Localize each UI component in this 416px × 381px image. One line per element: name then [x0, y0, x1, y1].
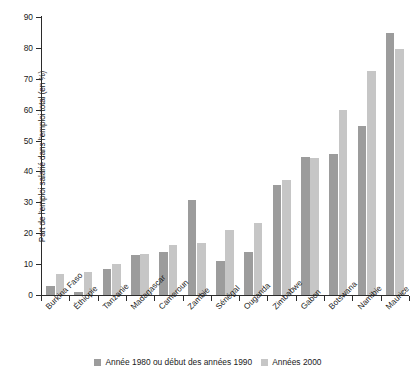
- x-tick: [239, 296, 240, 301]
- bar-chart: Part de l'emploi salarié dans l'emploi t…: [0, 0, 416, 381]
- bar: [301, 157, 310, 295]
- legend-swatch: [261, 359, 268, 366]
- bar: [282, 180, 291, 295]
- x-tick: [69, 296, 70, 301]
- y-tick-label: 90: [0, 12, 33, 22]
- y-tick-label: 70: [0, 74, 33, 84]
- x-tick: [126, 296, 127, 301]
- bar: [367, 71, 376, 295]
- legend-label: Années 2000: [272, 357, 321, 367]
- y-tick-label: 60: [0, 105, 33, 115]
- x-tick: [211, 296, 212, 301]
- bar: [273, 185, 282, 295]
- x-tick: [409, 296, 410, 301]
- chart-legend: Année 1980 ou début des années 1990Année…: [0, 357, 416, 367]
- y-tick-label: 10: [0, 259, 33, 269]
- bar: [339, 110, 348, 295]
- x-tick: [41, 296, 42, 301]
- bar: [244, 252, 253, 295]
- x-tick: [267, 296, 268, 301]
- bar: [188, 200, 197, 295]
- y-tick-label: 50: [0, 136, 33, 146]
- bar: [216, 261, 225, 295]
- y-tick-label: 40: [0, 166, 33, 176]
- bar: [103, 269, 112, 295]
- x-tick: [324, 296, 325, 301]
- y-tick-label: 20: [0, 228, 33, 238]
- x-tick: [183, 296, 184, 301]
- legend-item: Année 1980 ou début des années 1990: [94, 357, 252, 367]
- x-tick: [296, 296, 297, 301]
- legend-label: Année 1980 ou début des années 1990: [105, 357, 252, 367]
- bar: [310, 158, 319, 295]
- plot-area: [41, 17, 409, 295]
- y-tick-label: 30: [0, 197, 33, 207]
- bar: [329, 154, 338, 295]
- bar: [358, 126, 367, 295]
- x-tick: [381, 296, 382, 301]
- x-tick: [352, 296, 353, 301]
- x-tick: [154, 296, 155, 301]
- bar: [386, 33, 395, 295]
- x-tick: [98, 296, 99, 301]
- legend-swatch: [94, 359, 101, 366]
- y-tick-label: 80: [0, 43, 33, 53]
- y-tick-label: 0: [0, 290, 33, 300]
- bar: [395, 49, 404, 295]
- bar: [131, 255, 140, 295]
- legend-item: Années 2000: [261, 357, 321, 367]
